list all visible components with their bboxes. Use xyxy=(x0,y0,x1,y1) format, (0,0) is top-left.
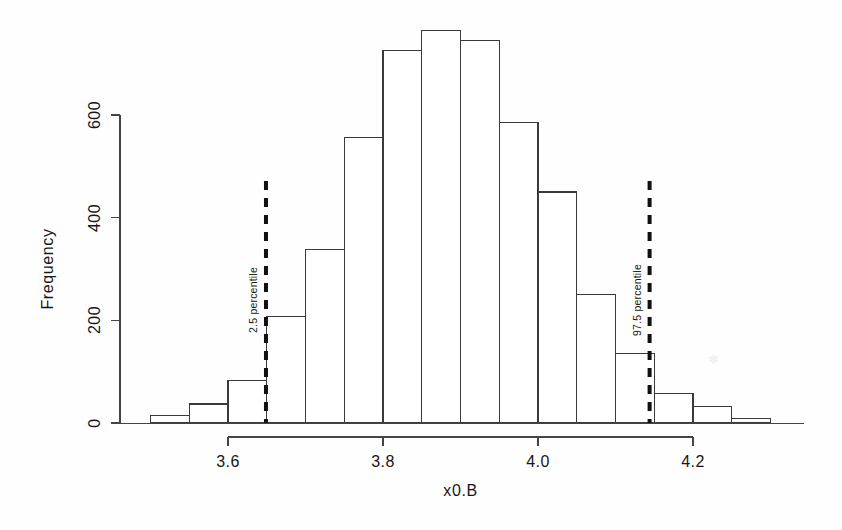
percentile-label: 97.5 percentile xyxy=(631,264,643,336)
x-axis-title: x0.B xyxy=(443,482,477,500)
percentile-label: 2.5 percentile xyxy=(247,267,259,333)
histogram-bar xyxy=(538,192,577,423)
x-tick-label: 3.8 xyxy=(371,453,395,471)
y-tick-label: 400 xyxy=(86,204,104,232)
histogram-bar xyxy=(228,381,267,423)
y-tick-label: 600 xyxy=(86,101,104,129)
histogram-bar xyxy=(499,122,538,423)
histogram-bar xyxy=(151,415,190,423)
chart-canvas xyxy=(0,0,842,530)
histogram-bar xyxy=(654,393,693,423)
histogram-bar xyxy=(344,137,383,423)
y-tick-label: 0 xyxy=(86,418,104,427)
histogram-bar xyxy=(267,317,306,423)
histogram-bar xyxy=(693,406,732,423)
x-axis xyxy=(118,423,804,446)
histogram-bar xyxy=(383,51,422,423)
histogram-bar xyxy=(422,31,461,423)
histogram-figure: 02004006003.63.84.04.22.5 percentile97.5… xyxy=(0,0,842,530)
y-axis-title: Frequency xyxy=(39,229,57,310)
histogram-bar xyxy=(732,419,771,423)
histogram-bar xyxy=(461,41,500,423)
histogram-bars xyxy=(151,31,771,423)
y-axis xyxy=(111,115,120,423)
histogram-bar xyxy=(189,404,228,423)
histogram-bar xyxy=(577,294,616,423)
x-tick-label: 3.6 xyxy=(216,453,240,471)
x-tick-label: 4.2 xyxy=(681,453,705,471)
histogram-bar xyxy=(306,249,345,423)
y-tick-label: 200 xyxy=(86,306,104,334)
x-tick-label: 4.0 xyxy=(526,453,550,471)
